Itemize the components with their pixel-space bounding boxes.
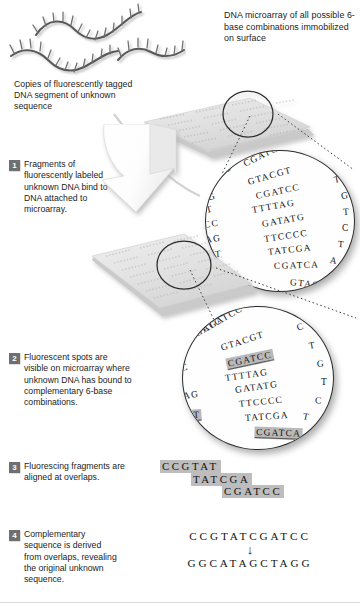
array-sequence: TTCCCC (238, 394, 283, 409)
edge-seq: G (340, 190, 349, 201)
edge-seq: GA (208, 439, 225, 450)
array-sequence: GATATG (234, 379, 278, 395)
alignment-row: TATCGA (160, 469, 284, 482)
edge-seq: C (342, 223, 350, 233)
lit-spot-sequence: TAT (182, 409, 202, 422)
microarray-header-label: DNA microarray of all possible 6-base co… (224, 10, 356, 45)
edge-seq: C (314, 395, 323, 406)
edge-seq: T (343, 207, 351, 217)
array-sequence: CGATCC (201, 306, 245, 334)
step-4: 4 Complementary sequence is derived from… (9, 529, 121, 585)
fragment-sequence: CGATCC (222, 485, 284, 498)
process-arrow-top (88, 124, 192, 228)
step-2: 2 Fluorescent spots are visible on micro… (9, 352, 133, 408)
derived-sequence: CCGTATCGATCC (150, 530, 350, 542)
step-2-text: Fluorescent spots are visible on microar… (24, 352, 133, 408)
step-1-badge: 1 (9, 160, 20, 171)
edge-seq: C (295, 321, 306, 333)
edge-seq: T (321, 377, 328, 387)
figure-canvas: DNA microarray of all possible 6-base co… (0, 0, 360, 607)
edge-seq: T (205, 203, 214, 214)
edge-seq: AG (182, 389, 199, 401)
edge-seq: C (326, 155, 337, 167)
alignment-row: CGATCC (160, 481, 284, 494)
step-4-badge: 4 (9, 530, 20, 541)
downward-arrow-icon (88, 124, 192, 224)
bottom-divider (0, 602, 360, 603)
alignment-row: CCGTAT (160, 456, 284, 469)
step-3: 3 Fluorescing fragments are aligned at o… (9, 461, 133, 484)
edge-seq: C (182, 361, 190, 373)
array-sequence: CGATCC (242, 150, 287, 168)
edge-seq: G (316, 358, 325, 369)
edge-seq: T (333, 174, 342, 185)
step-4-text: Complementary sequence is derived from o… (24, 529, 121, 585)
complement-sequence: GGCATAGCTAGG (150, 557, 350, 569)
edge-seq: T (308, 340, 317, 351)
downward-arrow-icon: ↓ (150, 543, 350, 556)
edge-seq: T (302, 411, 311, 422)
lit-spot-sequence: CGATCA (255, 427, 303, 440)
step-2-badge: 2 (9, 353, 20, 364)
final-sequence-block: CCGTATCGATCC ↓ GGCATAGCTAGG (150, 530, 350, 569)
edge-seq: T (338, 239, 346, 249)
magnifier-bottom-content: CGATC C AG TAT CC GA CGATCC GTACGT CGATC… (183, 307, 333, 449)
magnifier-circle-bottom: CGATC C AG TAT CC GA CGATCC GTACGT CGATC… (182, 306, 334, 450)
array-sequence: GTACGT (219, 329, 265, 352)
alignment-stack: CCGTAT TATCGA CGATCC (160, 456, 284, 494)
edge-seq: CC (191, 427, 206, 437)
step-3-badge: 3 (9, 462, 20, 473)
edge-seq: CG (216, 162, 234, 178)
dna-fragment-icon (8, 2, 186, 82)
edge-seq: G (206, 191, 217, 203)
array-sequence: TATCGA (245, 410, 290, 423)
step-3-text: Fluorescing fragments are aligned at ove… (24, 461, 133, 484)
